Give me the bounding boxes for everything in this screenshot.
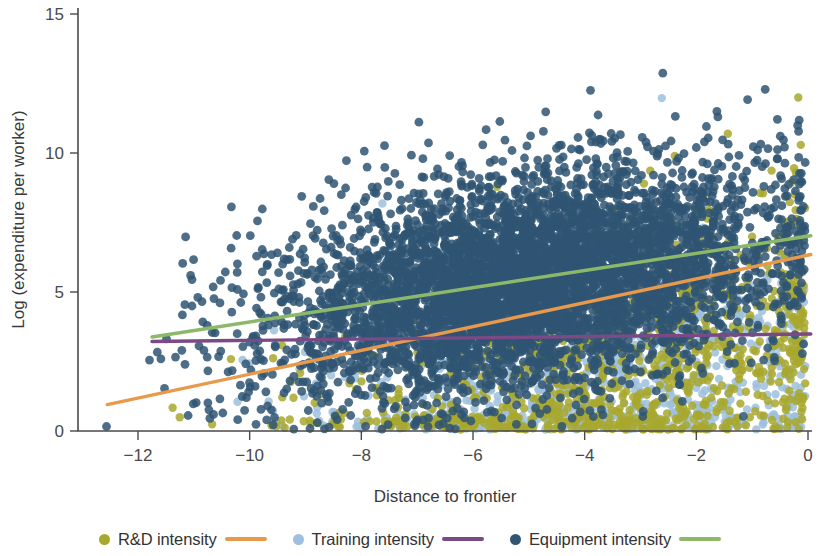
chart-legend: R&D intensity Training intensity Equipme… xyxy=(0,522,820,556)
y-axis-title: Log (expenditure per worker) xyxy=(9,110,28,328)
legend-dot-icon-training xyxy=(293,534,304,545)
x-tick-label-0: 0 xyxy=(803,446,812,465)
y-tick-label-0: 0 xyxy=(55,422,64,441)
scatter-chart-figure: 051015−12−10−8−6−4−20Distance to frontie… xyxy=(0,0,820,556)
legend-label-equipment: Equipment intensity xyxy=(529,530,671,549)
legend-item-training-intensity[interactable]: Training intensity xyxy=(293,530,484,549)
x-tick-label--12: −12 xyxy=(124,446,153,465)
legend-label-rd: R&D intensity xyxy=(118,530,217,549)
y-tick-label-15: 15 xyxy=(45,5,64,24)
legend-dot-icon-rd xyxy=(99,534,110,545)
x-tick-label--6: −6 xyxy=(463,446,482,465)
legend-line-icon-equipment xyxy=(679,537,721,541)
legend-label-training: Training intensity xyxy=(312,530,434,549)
plot-canvas: 051015−12−10−8−6−4−20Distance to frontie… xyxy=(0,0,820,556)
legend-line-icon-rd xyxy=(225,537,267,541)
legend-dot-icon-equipment xyxy=(510,534,521,545)
x-tick-label--2: −2 xyxy=(687,446,706,465)
x-tick-label--4: −4 xyxy=(575,446,594,465)
legend-item-equipment-intensity[interactable]: Equipment intensity xyxy=(510,530,721,549)
y-tick-label-5: 5 xyxy=(55,283,64,302)
y-tick-label-10: 10 xyxy=(45,144,64,163)
x-tick-label--10: −10 xyxy=(235,446,264,465)
x-tick-label--8: −8 xyxy=(352,446,371,465)
legend-line-icon-training xyxy=(442,537,484,541)
x-axis-title: Distance to frontier xyxy=(374,487,517,506)
legend-item-rd-intensity[interactable]: R&D intensity xyxy=(99,530,267,549)
